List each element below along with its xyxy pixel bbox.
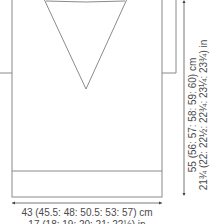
height-arrow-bottom-icon (183, 193, 186, 196)
height-label-in: 21¾ (22: 22½: 22¾: 23¼: 23¾) in (198, 40, 209, 191)
garment-schematic: 55 (56: 57: 58: 59: 60) cm 21¾ (22: 22½:… (0, 0, 210, 224)
height-arrow-top-icon (183, 0, 186, 3)
width-arrow-right-icon (159, 202, 162, 205)
width-label-cm: 43 (45.5: 48: 50.5: 53: 57) cm (21, 207, 152, 218)
width-label-in: 17 (18: 19: 20: 21: 22½) in (28, 219, 145, 224)
height-label-cm: 55 (56: 57: 58: 59: 60) cm (187, 58, 198, 173)
width-arrow-left-icon (12, 202, 15, 205)
neckline-edge (46, 1, 125, 2)
body-outline (12, 0, 162, 197)
right-sleeve-outline (162, 0, 176, 73)
v-neck-outline (44, 0, 127, 89)
